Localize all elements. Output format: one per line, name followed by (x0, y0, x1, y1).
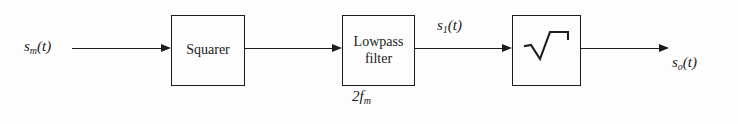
block-squarer-label: Squarer (186, 42, 230, 59)
square-root-icon (523, 26, 571, 62)
arrowhead-into-sqrt (502, 44, 512, 52)
output-signal-arg: (t) (683, 54, 697, 70)
intermediate-signal-arg: (t) (448, 17, 462, 33)
arrowhead-into-squarer (161, 44, 171, 52)
input-signal-subscript: m (30, 45, 37, 56)
lowpass-bandwidth-subscript: m (364, 95, 371, 106)
arrowhead-to-output (659, 44, 669, 52)
wire-input-to-squarer (72, 48, 162, 49)
wire-squarer-to-lowpass (245, 48, 332, 49)
lowpass-bandwidth-label: 2fm (352, 88, 371, 106)
block-lowpass-label-line1: Lowpass (354, 34, 404, 51)
wire-lowpass-to-sqrt (415, 48, 502, 49)
intermediate-signal-label: s1(t) (437, 17, 462, 35)
input-signal-label: sm(t) (24, 38, 51, 56)
block-diagram-figure: sm(t) Squarer Lowpass filter 2fm s1(t) s… (0, 0, 738, 124)
block-lowpass-label-line2: filter (365, 51, 392, 68)
input-signal-arg: (t) (37, 38, 51, 54)
lowpass-bandwidth-base: 2f (352, 88, 364, 104)
arrowhead-into-lowpass (332, 44, 342, 52)
output-signal-label: so(t) (672, 54, 697, 72)
block-squarer[interactable]: Squarer (171, 15, 245, 86)
wire-sqrt-to-output (581, 48, 665, 49)
block-lowpass-filter[interactable]: Lowpass filter (342, 15, 415, 86)
